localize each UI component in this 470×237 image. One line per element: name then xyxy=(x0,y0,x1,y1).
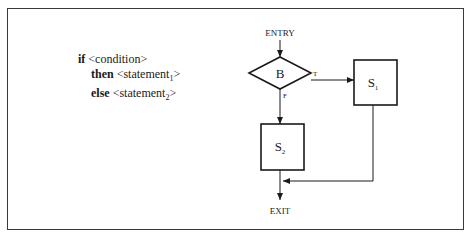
entry-label: ENTRY xyxy=(265,28,295,38)
false-label: F xyxy=(283,92,287,100)
s2-label-main: S xyxy=(275,139,282,154)
s1-label-main: S xyxy=(368,75,375,90)
decision-label: B xyxy=(276,66,285,81)
s2-box xyxy=(261,124,304,170)
s1-box xyxy=(354,60,397,105)
exit-label: EXIT xyxy=(270,206,291,216)
s1-label-sub: 1 xyxy=(375,84,379,92)
flowchart: ENTRY B T S1 F S2 EXIT xyxy=(0,0,470,237)
s2-label: S2 xyxy=(275,139,286,156)
true-label: T xyxy=(313,70,318,78)
s2-label-sub: 2 xyxy=(282,148,286,156)
s1-label: S1 xyxy=(368,75,379,92)
